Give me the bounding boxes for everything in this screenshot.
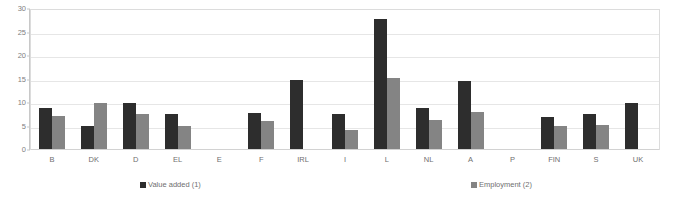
x-label-i: I bbox=[324, 152, 366, 168]
legend-label-value-added: Value added (1) bbox=[148, 181, 201, 189]
bar-group-uk bbox=[617, 10, 659, 149]
x-label-l: L bbox=[366, 152, 408, 168]
bar-employment-b bbox=[52, 116, 65, 149]
y-tick-label-5: 5 bbox=[22, 123, 26, 131]
y-tick-label-0: 0 bbox=[22, 146, 26, 154]
bar-value-added-nl bbox=[416, 108, 429, 149]
gridline-0 bbox=[31, 149, 659, 150]
bar-group-d bbox=[115, 10, 157, 149]
bar-value-added-b bbox=[39, 108, 52, 149]
bar-group-irl bbox=[282, 10, 324, 149]
bar-group-b bbox=[31, 10, 73, 149]
bar-employment-i bbox=[345, 130, 358, 149]
x-label-f: F bbox=[240, 152, 282, 168]
bar-employment-dk bbox=[94, 103, 107, 149]
x-label-s: S bbox=[575, 152, 617, 168]
bar-value-added-fin bbox=[541, 117, 554, 149]
bar-group-dk bbox=[73, 10, 115, 149]
bar-group-i bbox=[324, 10, 366, 149]
bar-group-a bbox=[450, 10, 492, 149]
x-label-d: D bbox=[115, 152, 157, 168]
x-label-e: E bbox=[198, 152, 240, 168]
y-tick-label-15: 15 bbox=[18, 76, 26, 84]
bar-groups bbox=[31, 10, 659, 149]
bar-value-added-l bbox=[374, 19, 387, 149]
bar-value-added-el bbox=[165, 114, 178, 149]
x-label-nl: NL bbox=[408, 152, 450, 168]
bar-employment-el bbox=[178, 126, 191, 149]
bar-employment-s bbox=[596, 125, 609, 149]
y-tick-label-10: 10 bbox=[18, 99, 26, 107]
x-label-uk: UK bbox=[617, 152, 659, 168]
legend-swatch-icon bbox=[471, 182, 477, 188]
bar-employment-fin bbox=[554, 126, 567, 149]
bar-value-added-a bbox=[458, 81, 471, 149]
bar-employment-d bbox=[136, 114, 149, 149]
bar-group-f bbox=[240, 10, 282, 149]
bar-group-e bbox=[198, 10, 240, 149]
bar-chart: 30 25 20 15 10 5 0 BDKDELEFIRLILNLAPFINS… bbox=[0, 0, 676, 204]
bar-group-s bbox=[575, 10, 617, 149]
bar-group-fin bbox=[533, 10, 575, 149]
x-label-dk: DK bbox=[73, 152, 115, 168]
bar-employment-f bbox=[261, 121, 274, 149]
y-tick-label-30: 30 bbox=[18, 5, 26, 13]
legend-entry-employment: Employment (2) bbox=[471, 178, 532, 192]
bar-employment-a bbox=[471, 112, 484, 149]
bar-group-nl bbox=[408, 10, 450, 149]
x-label-b: B bbox=[31, 152, 73, 168]
bar-employment-nl bbox=[429, 120, 442, 149]
y-axis: 30 25 20 15 10 5 0 bbox=[0, 0, 30, 150]
y-tick-label-25: 25 bbox=[18, 29, 26, 37]
bar-employment-l bbox=[387, 78, 400, 149]
bar-group-l bbox=[366, 10, 408, 149]
legend-swatch-icon bbox=[140, 182, 146, 188]
y-tick-label-20: 20 bbox=[18, 52, 26, 60]
x-label-a: A bbox=[450, 152, 492, 168]
bar-group-el bbox=[157, 10, 199, 149]
legend-entry-value-added: Value added (1) bbox=[140, 178, 201, 192]
bar-value-added-irl bbox=[290, 80, 303, 149]
x-axis-labels: BDKDELEFIRLILNLAPFINSUK bbox=[31, 152, 659, 168]
x-label-fin: FIN bbox=[533, 152, 575, 168]
bar-group-p bbox=[491, 10, 533, 149]
x-label-p: P bbox=[491, 152, 533, 168]
bar-value-added-i bbox=[332, 114, 345, 149]
bar-value-added-f bbox=[248, 113, 261, 149]
legend-label-employment: Employment (2) bbox=[479, 181, 532, 189]
plot-area bbox=[31, 10, 659, 149]
bar-value-added-dk bbox=[81, 126, 94, 149]
bar-value-added-d bbox=[123, 103, 136, 149]
x-label-irl: IRL bbox=[282, 152, 324, 168]
chart-legend: Value added (1) Employment (2) bbox=[30, 178, 660, 192]
x-label-el: EL bbox=[157, 152, 199, 168]
bar-value-added-uk bbox=[625, 103, 638, 149]
bar-value-added-s bbox=[583, 114, 596, 149]
